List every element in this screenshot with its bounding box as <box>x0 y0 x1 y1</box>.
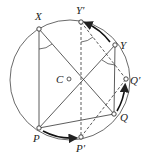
label-y: Y <box>120 39 128 51</box>
label-y-prime: Y′ <box>76 4 85 16</box>
label-p-prime: P′ <box>75 142 86 154</box>
rotation-diagram: C X Y′ Y Q′ Q P′ P <box>0 0 148 156</box>
point-y <box>113 43 117 47</box>
point-y-prime <box>79 20 83 24</box>
point-q-prime <box>124 77 128 81</box>
point-x <box>37 27 41 31</box>
label-q-prime: Q′ <box>130 74 141 86</box>
center-label: C <box>56 73 64 85</box>
label-q: Q <box>120 111 128 123</box>
point-q <box>112 112 116 116</box>
diagram-canvas: C X Y′ Y Q′ Q P′ P <box>0 0 148 156</box>
label-p: P <box>32 132 40 144</box>
point-p <box>37 126 41 130</box>
label-x: X <box>34 10 43 22</box>
point-p-prime <box>79 135 83 139</box>
center-point <box>67 77 71 81</box>
solid-lines <box>39 29 115 128</box>
